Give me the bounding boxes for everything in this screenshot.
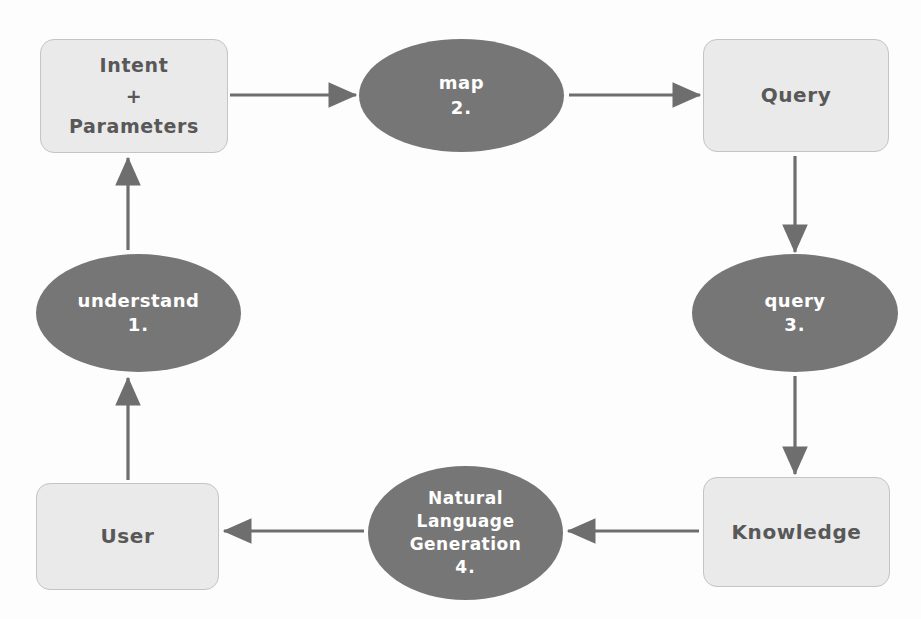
diagram-canvas: Intent + Parameters map 2. Query underst…	[0, 0, 921, 619]
node-query-ellipse[interactable]: query 3.	[692, 254, 898, 372]
node-nlg-label: Natural Language Generation 4.	[410, 487, 522, 578]
node-query-box-label: Query	[761, 79, 832, 111]
node-user[interactable]: User	[36, 483, 219, 590]
nlg-line-2: Language	[417, 511, 515, 531]
query-label-text: query	[764, 290, 825, 311]
node-query-ellipse-label: query 3.	[764, 289, 825, 337]
intent-line-2: +	[126, 85, 143, 107]
intent-line-1: Intent	[100, 54, 169, 76]
node-query-box[interactable]: Query	[703, 39, 889, 152]
node-map[interactable]: map 2.	[359, 39, 564, 152]
node-understand-label: understand 1.	[78, 289, 200, 337]
node-natural-language-generation[interactable]: Natural Language Generation 4.	[368, 466, 563, 600]
node-intent-label: Intent + Parameters	[69, 50, 199, 142]
node-map-label: map 2.	[439, 71, 484, 119]
understand-label-text: understand	[78, 290, 200, 311]
map-step-number: 2.	[439, 96, 484, 120]
nlg-step-number: 4.	[410, 556, 522, 579]
node-knowledge[interactable]: Knowledge	[703, 477, 890, 587]
intent-line-3: Parameters	[69, 115, 199, 137]
query-step-number: 3.	[764, 313, 825, 337]
node-intent-parameters[interactable]: Intent + Parameters	[40, 39, 228, 153]
nlg-line-3: Generation	[410, 534, 522, 554]
understand-step-number: 1.	[78, 313, 200, 337]
node-knowledge-label: Knowledge	[732, 516, 862, 548]
map-label-text: map	[439, 72, 484, 93]
nlg-line-1: Natural	[428, 488, 503, 508]
node-understand[interactable]: understand 1.	[36, 254, 241, 372]
node-user-label: User	[101, 520, 155, 552]
